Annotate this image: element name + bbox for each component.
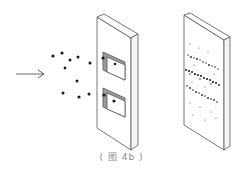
detection-screen — [184, 13, 230, 150]
arrow-icon — [16, 70, 44, 78]
figure-caption: ( 图 4b ) — [0, 150, 243, 163]
incoming-particles — [51, 51, 91, 98]
barrier — [97, 14, 138, 150]
